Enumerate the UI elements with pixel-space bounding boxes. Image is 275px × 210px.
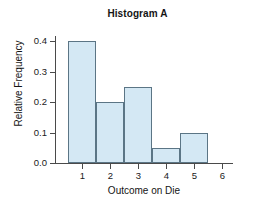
x-tick: 2 bbox=[110, 164, 111, 169]
x-axis-title: Outcome on Die bbox=[55, 185, 233, 196]
histogram-bar bbox=[180, 133, 208, 164]
histogram-bar bbox=[124, 87, 152, 163]
x-tick-label: 1 bbox=[76, 170, 89, 181]
histogram-bar bbox=[96, 102, 124, 163]
y-tick-label: 0.3 bbox=[34, 66, 47, 77]
y-tick: 0.0 bbox=[50, 163, 55, 164]
y-axis-title: Relative Frequency bbox=[13, 19, 24, 149]
y-tick-label: 0.0 bbox=[34, 157, 47, 168]
y-tick-label: 0.4 bbox=[34, 35, 47, 46]
x-tick-label: 3 bbox=[132, 170, 145, 181]
y-tick: 0.1 bbox=[50, 133, 55, 134]
x-tick-label: 6 bbox=[216, 170, 229, 181]
y-tick-label: 0.1 bbox=[34, 127, 47, 138]
x-tick-label: 2 bbox=[104, 170, 117, 181]
x-tick-label: 5 bbox=[188, 170, 201, 181]
y-tick: 0.3 bbox=[50, 72, 55, 73]
y-tick: 0.4 bbox=[50, 41, 55, 42]
plot-area: 0.00.10.20.30.4 123456 Relative Frequenc… bbox=[0, 0, 275, 210]
x-tick: 4 bbox=[166, 164, 167, 169]
x-tick: 6 bbox=[222, 164, 223, 169]
x-tick: 1 bbox=[82, 164, 83, 169]
histogram-figure: Histogram A 0.00.10.20.30.4 123456 Relat… bbox=[0, 0, 275, 210]
histogram-bar bbox=[152, 148, 180, 163]
x-tick: 3 bbox=[138, 164, 139, 169]
x-tick: 5 bbox=[194, 164, 195, 169]
y-tick-label: 0.2 bbox=[34, 96, 47, 107]
y-axis-line bbox=[55, 36, 56, 164]
histogram-bar bbox=[68, 41, 96, 163]
y-tick: 0.2 bbox=[50, 102, 55, 103]
x-tick-label: 4 bbox=[160, 170, 173, 181]
